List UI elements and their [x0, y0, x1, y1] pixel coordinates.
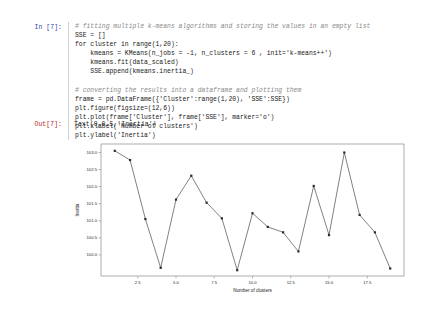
y-axis-label: Inertia — [75, 203, 80, 216]
data-point-marker — [374, 231, 376, 233]
code-line: kmeans = KMeans(n_jobs = -1, n_clusters … — [75, 49, 444, 58]
x-tick-label: 2.5 — [135, 280, 141, 285]
x-tick-label: 12.5 — [287, 280, 296, 285]
y-tick-label: 102.0 — [87, 184, 98, 189]
code-line: # converting the results into a datafram… — [75, 86, 444, 95]
y-tick-label: 100.5 — [87, 235, 98, 240]
code-line: SSE.append(kmeans.inertia_) — [75, 67, 444, 76]
data-point-marker — [297, 250, 299, 252]
matplotlib-figure: 2.55.07.510.012.515.017.5100.0100.5101.0… — [0, 136, 444, 302]
notebook-page: In [7]: # fitting multiple k-means algor… — [0, 0, 444, 310]
code-line-blank — [75, 77, 444, 86]
x-tick-label: 7.5 — [211, 280, 217, 285]
series-line — [115, 151, 390, 270]
y-tick-label: 103.0 — [87, 150, 98, 155]
data-point-marker — [129, 159, 131, 161]
x-tick-label: 5.0 — [173, 280, 179, 285]
code-line: for cluster in range(1,20): — [75, 40, 444, 49]
code-line: # fitting multiple k-means algorithms an… — [75, 22, 444, 31]
data-point-marker — [251, 212, 253, 214]
code-line: kmeans.fit(data_scaled) — [75, 58, 444, 67]
code-line: SSE = [] — [75, 31, 444, 40]
y-tick-label: 101.0 — [87, 218, 98, 223]
data-point-marker — [205, 202, 207, 204]
data-point-marker — [328, 234, 330, 236]
y-tick-label: 101.5 — [87, 201, 98, 206]
data-point-marker — [190, 175, 192, 177]
inertia-line-chart: 2.55.07.510.012.515.017.5100.0100.5101.0… — [0, 136, 444, 302]
data-point-marker — [343, 151, 345, 153]
data-point-marker — [160, 267, 162, 269]
output-prompt-label: Out[7]: — [8, 121, 62, 128]
data-point-marker — [389, 267, 391, 269]
y-tick-label: 102.5 — [87, 167, 98, 172]
code-line: plt.figure(figsize=(12,6)) — [75, 104, 444, 113]
x-tick-label: 10.0 — [248, 280, 257, 285]
data-point-marker — [144, 218, 146, 220]
y-tick-label: 100.0 — [87, 252, 98, 257]
x-tick-label: 17.5 — [363, 280, 372, 285]
data-point-marker — [175, 198, 177, 200]
data-point-marker — [114, 150, 116, 152]
data-point-marker — [236, 269, 238, 271]
code-line: frame = pd.DataFrame({'Cluster':range(1,… — [75, 95, 444, 104]
data-point-marker — [313, 185, 315, 187]
x-tick-label: 15.0 — [325, 280, 334, 285]
data-point-marker — [282, 231, 284, 233]
data-point-marker — [221, 217, 223, 219]
output-repr-text: Text(0,0.5,'Inertia') — [74, 121, 157, 128]
x-axis-label: Number of clusters — [233, 288, 272, 293]
data-point-marker — [359, 214, 361, 216]
input-prompt-label: In [7]: — [14, 24, 62, 31]
data-point-marker — [267, 226, 269, 228]
